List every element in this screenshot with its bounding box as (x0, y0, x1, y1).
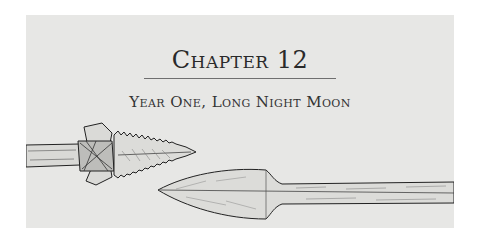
chapter-header-panel: Chapter 12 Year One, Long Night Moon (26, 15, 454, 228)
spear-illustration (26, 15, 454, 228)
serrated-spear-icon (26, 123, 196, 185)
leaf-spear-icon (158, 169, 454, 219)
